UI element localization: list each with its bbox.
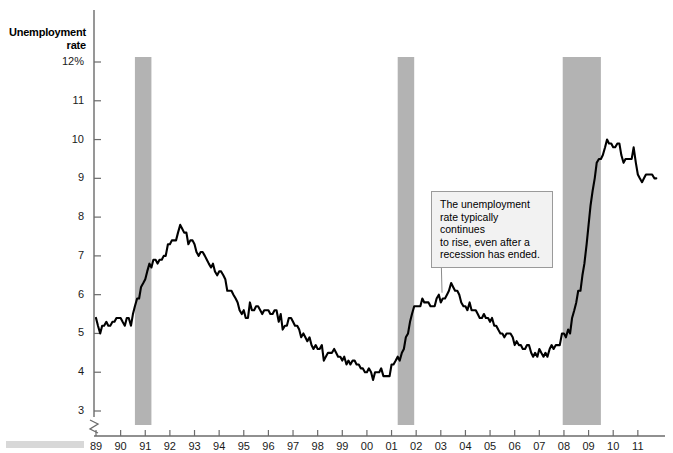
- unemployment-rate-chart: Unemployment rate 12%11109876543 8990919…: [0, 0, 673, 453]
- annotation-line-1: The unemployment: [440, 198, 545, 211]
- y-tick-label-9: 9: [54, 171, 84, 183]
- y-tick-label-10: 10: [54, 133, 84, 145]
- recession-band-2: [398, 57, 415, 425]
- x-tick-label-11: 11: [624, 440, 652, 452]
- tick-marks-group: [94, 62, 638, 436]
- plot-area: [0, 0, 673, 453]
- annotation-callout: The unemployment rate typically continue…: [431, 191, 553, 268]
- recession-band-3: [563, 57, 601, 425]
- y-tick-label-7: 7: [54, 249, 84, 261]
- recession-band-1: [135, 57, 152, 425]
- annotation-line-3: to rise, even after a: [440, 236, 545, 249]
- y-tick-label-5: 5: [54, 326, 84, 338]
- y-axis-break-icon: [90, 420, 98, 433]
- y-tick-label-8: 8: [54, 210, 84, 222]
- annotation-line-2: rate typically continues: [440, 211, 545, 236]
- y-tick-label-12: 12%: [54, 55, 84, 67]
- y-tick-label-4: 4: [54, 365, 84, 377]
- y-tick-label-11: 11: [54, 94, 84, 106]
- y-tick-label-3: 3: [54, 404, 84, 416]
- axis-break-squiggle: [90, 420, 98, 433]
- y-tick-label-6: 6: [54, 288, 84, 300]
- annotation-line-4: recession has ended.: [440, 248, 545, 261]
- footer-source-bar: [6, 441, 84, 448]
